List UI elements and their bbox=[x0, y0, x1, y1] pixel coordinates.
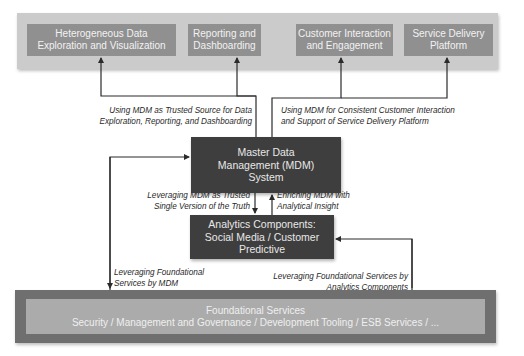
label-foundational-by-mdm: Leveraging Foundational Services by MDM bbox=[114, 267, 204, 289]
label-single-version: Leveraging MDM as Trusted Single Version… bbox=[140, 190, 250, 212]
label-enriching: Enriching MDM with Analytical Insight bbox=[277, 190, 350, 212]
label-consistent-interaction: Using MDM for Consistent Customer Intera… bbox=[281, 105, 455, 127]
mdm-system-box: Master DataManagement (MDM)System bbox=[191, 137, 341, 193]
label-line: Analytical Insight bbox=[277, 202, 338, 211]
box-label: System bbox=[248, 171, 283, 183]
box-label: Master Data bbox=[237, 146, 294, 158]
foundation-title: Foundational Services bbox=[206, 305, 305, 317]
label-line: Leveraging Foundational Services by bbox=[273, 272, 408, 281]
label-trusted-source: Using MDM as Trusted Source for Data Exp… bbox=[96, 105, 252, 127]
label-line: Services by MDM bbox=[114, 279, 178, 288]
label-line: Using MDM for Consistent Customer Intera… bbox=[281, 106, 455, 115]
box-label: Management (MDM) bbox=[218, 159, 314, 171]
analytics-components-box: Analytics Components:Social Media / Cust… bbox=[190, 215, 334, 259]
box-label: Analytics Components: bbox=[208, 218, 315, 230]
label-line: Single Version of the Truth bbox=[154, 202, 250, 211]
box-label: Predictive bbox=[239, 243, 285, 255]
label-line: Leveraging Foundational bbox=[114, 268, 204, 277]
foundational-services-box: Foundational Services Security / Managem… bbox=[26, 299, 485, 334]
label-line: Using MDM as Trusted Source for Data bbox=[109, 106, 252, 115]
foundation-subtitle: Security / Management and Governance / D… bbox=[72, 317, 439, 329]
box-label: Social Media / Customer bbox=[205, 231, 319, 243]
label-line: and Support of Service Delivery Platform bbox=[281, 117, 429, 126]
label-line: Exploration, Reporting, and Dashboarding bbox=[100, 117, 252, 126]
